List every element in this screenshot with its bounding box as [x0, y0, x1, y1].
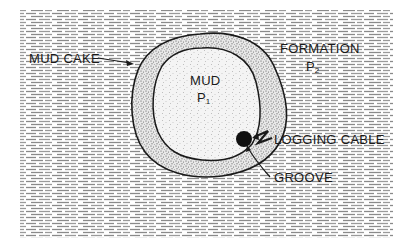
- mud-pressure-subscript: 1: [206, 97, 210, 106]
- formation-label: FORMATION: [280, 42, 360, 55]
- mud-cake-label: MUD CAKE: [29, 52, 100, 65]
- mud-pressure-symbol: P: [197, 90, 206, 105]
- mud-label: MUD: [190, 74, 221, 87]
- mud-pressure-label: P1: [197, 91, 210, 106]
- formation-pressure-label: P2: [306, 60, 319, 75]
- logging-cable-icon: [236, 131, 252, 147]
- borehole-diagram: MUD CAKE MUD P1 FORMATION P2 LOGGING CAB…: [0, 0, 417, 251]
- groove-label: GROOVE: [274, 171, 333, 184]
- diagram-canvas: [0, 0, 417, 251]
- formation-pressure-symbol: P: [306, 59, 315, 74]
- logging-cable-label: LOGGING CABLE: [274, 133, 385, 146]
- formation-pressure-subscript: 2: [315, 66, 319, 75]
